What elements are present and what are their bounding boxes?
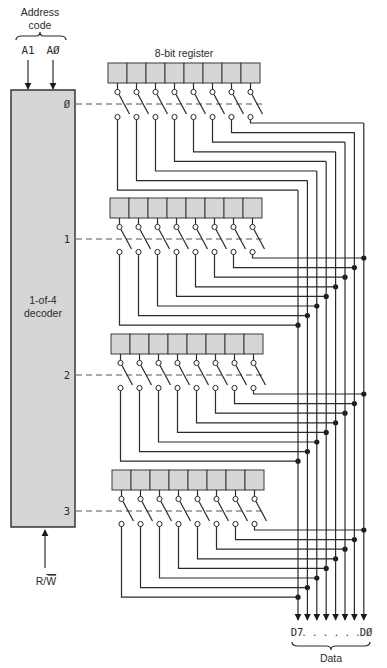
- switch-terminal-bottom: [191, 114, 196, 119]
- address-brace: [16, 32, 66, 40]
- switch-terminal-top: [138, 496, 143, 501]
- bit-wire: [254, 391, 364, 394]
- bit-wire: [255, 527, 364, 530]
- switch-terminal-bottom: [252, 521, 257, 526]
- bit-wire: [197, 391, 336, 423]
- bit-wire: [118, 120, 299, 191]
- switch-terminal-top: [191, 89, 196, 94]
- register-cell: [243, 198, 262, 218]
- address-title-line2: code: [29, 19, 52, 31]
- switch-terminal-top: [229, 89, 234, 94]
- switch-terminal-top: [250, 224, 255, 229]
- switch-terminal-top: [194, 360, 199, 365]
- bit-wire: [177, 255, 327, 297]
- switch-terminal-top: [214, 496, 219, 501]
- decoder-output-label: Ø: [64, 98, 71, 110]
- decoder-output-label: 1: [64, 233, 70, 245]
- switch-terminal-top: [136, 224, 141, 229]
- switch-terminal-top: [248, 89, 253, 94]
- register-cell: [187, 334, 206, 354]
- register-cell: [226, 470, 245, 490]
- bit-wire: [198, 527, 336, 559]
- switch-terminal-top: [172, 89, 177, 94]
- register-cell: [148, 198, 167, 218]
- bit-wire: [156, 120, 317, 171]
- register-cell: [165, 63, 184, 83]
- switch-terminal-bottom: [174, 249, 179, 254]
- switch-terminal-bottom: [233, 521, 238, 526]
- bit-wire: [175, 120, 327, 162]
- bit-wire: [121, 391, 299, 462]
- switch-terminal-bottom: [138, 521, 143, 526]
- register-cell: [169, 470, 188, 490]
- register-cell: [188, 470, 207, 490]
- decoder-output-label: 2: [64, 369, 70, 381]
- switch-terminal-bottom: [155, 249, 160, 254]
- switch-terminal-top: [137, 360, 142, 365]
- data-lsb-label: DØ: [360, 626, 373, 638]
- switch-terminal-bottom: [156, 385, 161, 390]
- switch-terminal-bottom: [213, 385, 218, 390]
- bit-wire: [178, 391, 327, 433]
- switch-terminal-top: [156, 360, 161, 365]
- switch-terminal-top: [212, 224, 217, 229]
- switch-terminal-bottom: [153, 114, 158, 119]
- switch-terminal-bottom: [232, 385, 237, 390]
- register-0: Ø: [64, 63, 364, 190]
- switch-terminal-top: [174, 224, 179, 229]
- bit-wire: [196, 255, 336, 287]
- switch-terminal-top: [251, 360, 256, 365]
- bit-wire: [160, 527, 317, 578]
- switch-terminal-bottom: [118, 385, 123, 390]
- register-3: 3: [64, 470, 367, 600]
- data-brace: [292, 642, 370, 650]
- register-cell: [205, 198, 224, 218]
- switch-terminal-bottom: [248, 114, 253, 119]
- register-cell: [131, 470, 150, 490]
- switch-terminal-bottom: [115, 114, 120, 119]
- switch-terminal-bottom: [172, 114, 177, 119]
- switch-terminal-bottom: [251, 385, 256, 390]
- switch-terminal-top: [176, 496, 181, 501]
- switch-terminal-top: [195, 496, 200, 501]
- register-cell: [150, 470, 169, 490]
- bit-wire: [179, 527, 327, 569]
- switch-terminal-top: [252, 496, 257, 501]
- switch-terminal-bottom: [134, 114, 139, 119]
- decoder-label-line2: decoder: [24, 307, 62, 319]
- register-cell: [241, 63, 260, 83]
- register-cell: [111, 334, 130, 354]
- bit-wire: [236, 527, 355, 540]
- switch-terminal-bottom: [137, 385, 142, 390]
- switch-terminal-top: [118, 360, 123, 365]
- switch-terminal-top: [210, 89, 215, 94]
- address-title-line1: Address: [21, 6, 60, 18]
- register-cell: [149, 334, 168, 354]
- switch-terminal-bottom: [229, 114, 234, 119]
- memory-diagram: Address code A1 AØ 1-of-4 decoder R/W D7…: [0, 0, 387, 668]
- bit-wire: [158, 255, 317, 306]
- data-bus: [298, 123, 364, 620]
- bit-wire: [159, 391, 317, 442]
- register-cell: [129, 198, 148, 218]
- switch-terminal-bottom: [119, 521, 124, 526]
- register-cell: [108, 63, 127, 83]
- bit-wire: [122, 527, 299, 598]
- register-cell: [130, 334, 149, 354]
- register-cell: [206, 334, 225, 354]
- register-cell: [184, 63, 203, 83]
- register-cell: [186, 198, 205, 218]
- register-array: 8-bit registerØ123: [64, 47, 367, 600]
- register-title: 8-bit register: [155, 47, 214, 59]
- data-title: Data: [320, 652, 342, 664]
- switch-terminal-bottom: [193, 249, 198, 254]
- switch-terminal-top: [117, 224, 122, 229]
- register-cell: [168, 334, 187, 354]
- register-cell: [110, 198, 129, 218]
- register-cell: [244, 334, 263, 354]
- switch-terminal-top: [157, 496, 162, 501]
- switch-terminal-bottom: [157, 521, 162, 526]
- register-cell: [225, 334, 244, 354]
- switch-terminal-top: [155, 224, 160, 229]
- switch-terminal-top: [232, 360, 237, 365]
